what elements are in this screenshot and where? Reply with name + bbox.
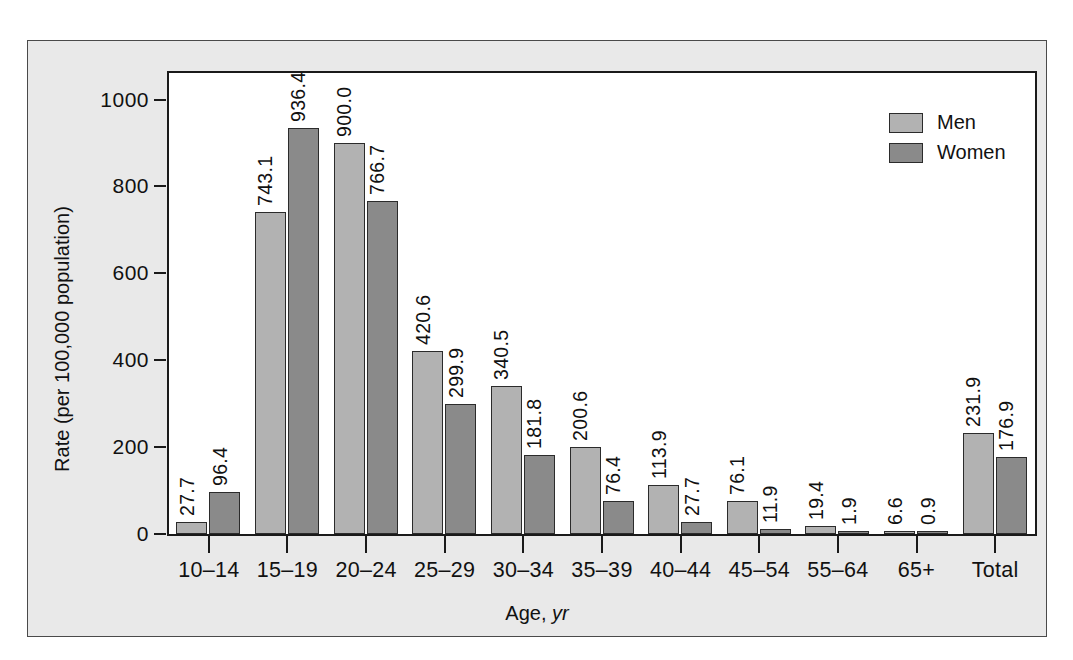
bar-value-label: 96.4 xyxy=(209,447,232,486)
bar-value-label: 299.9 xyxy=(445,348,468,398)
x-axis-tick-mark xyxy=(522,536,524,553)
bar-value-label: 766.7 xyxy=(366,145,389,195)
bar-men xyxy=(334,143,365,534)
bar-women xyxy=(996,457,1027,534)
x-axis-tick-mark xyxy=(837,536,839,553)
y-axis-title: Rate (per 100,000 population) xyxy=(51,206,74,472)
y-axis-tick-mark xyxy=(154,272,166,274)
x-axis-tick-label: 65+ xyxy=(898,558,935,583)
bar-value-label: 27.7 xyxy=(681,477,704,516)
bar-women xyxy=(681,522,712,534)
bar-women xyxy=(603,501,634,534)
x-axis-tick-label: 20–24 xyxy=(335,558,396,583)
x-axis-tick-mark xyxy=(286,536,288,553)
x-axis-title: Age, yr xyxy=(505,602,568,625)
legend-label-women: Women xyxy=(937,141,1006,164)
bar-women xyxy=(760,529,791,534)
bar-women xyxy=(367,201,398,534)
x-axis-title-unit: yr xyxy=(552,602,569,624)
x-axis-tick-label: 25–29 xyxy=(414,558,475,583)
bar-men xyxy=(963,433,994,534)
bar-value-label: 113.9 xyxy=(648,430,671,479)
y-axis-tick-mark xyxy=(154,533,166,535)
plot-area: 27.7743.1900.0420.6340.5200.6113.976.119… xyxy=(167,71,1037,536)
y-axis-tick-label: 200 xyxy=(112,435,149,459)
x-axis-tick-label: 40–44 xyxy=(650,558,711,583)
x-axis-tick-mark xyxy=(208,536,210,553)
y-axis-tick-mark xyxy=(154,185,166,187)
bar-value-label: 200.6 xyxy=(569,391,592,441)
bar-value-label: 743.1 xyxy=(254,155,277,205)
x-axis-tick-label: Total xyxy=(972,558,1019,583)
chart-legend: Men Women xyxy=(889,111,1006,171)
bar-men xyxy=(570,447,601,534)
y-axis-tick-mark xyxy=(154,359,166,361)
legend-item-men: Men xyxy=(889,111,1006,134)
x-axis-tick-label: 45–54 xyxy=(729,558,790,583)
bar-value-label: 900.0 xyxy=(333,87,356,137)
bar-men xyxy=(255,212,286,534)
bar-women xyxy=(288,128,319,534)
bar-value-label: 181.8 xyxy=(523,399,546,449)
bar-women xyxy=(209,492,240,534)
x-axis-tick-label: 15–19 xyxy=(257,558,318,583)
y-axis-tick-mark xyxy=(154,446,166,448)
bar-men xyxy=(884,531,915,534)
bar-men xyxy=(648,485,679,534)
chart-panel: Rate (per 100,000 population) 0200400600… xyxy=(27,40,1047,637)
y-axis-tick-mark xyxy=(154,99,166,101)
y-axis-tick-label: 1000 xyxy=(100,88,149,112)
x-axis-tick-mark xyxy=(758,536,760,553)
bar-women xyxy=(838,531,869,534)
x-axis-tick-mark xyxy=(365,536,367,553)
x-axis-title-text: Age, xyxy=(505,602,552,624)
legend-swatch-men-icon xyxy=(889,113,923,133)
bar-value-label: 0.9 xyxy=(917,497,940,525)
bar-men xyxy=(727,501,758,534)
bar-value-label: 11.9 xyxy=(759,485,782,523)
x-axis-tick-label: 30–34 xyxy=(493,558,554,583)
plot-inner: 27.7743.1900.0420.6340.5200.6113.976.119… xyxy=(169,73,1035,534)
x-axis-tick-mark xyxy=(916,536,918,553)
x-axis-tick-mark xyxy=(444,536,446,553)
bar-value-label: 76.1 xyxy=(726,456,749,495)
bar-value-label: 936.4 xyxy=(287,71,310,121)
legend-label-men: Men xyxy=(937,111,976,134)
bar-value-label: 76.4 xyxy=(602,456,625,495)
x-axis-tick-label: 10–14 xyxy=(178,558,239,583)
bar-value-label: 19.4 xyxy=(805,480,828,519)
x-axis-tick-mark xyxy=(680,536,682,553)
bar-men xyxy=(176,522,207,534)
x-axis-tick-mark xyxy=(601,536,603,553)
legend-swatch-women-icon xyxy=(889,143,923,163)
bar-men xyxy=(805,526,836,534)
bar-men xyxy=(412,351,443,534)
bar-women xyxy=(917,531,948,534)
bar-value-label: 27.7 xyxy=(176,477,199,516)
bar-women xyxy=(445,404,476,534)
x-axis-tick-label: 35–39 xyxy=(571,558,632,583)
bar-value-label: 6.6 xyxy=(884,497,907,525)
y-axis-tick-label: 800 xyxy=(112,174,149,198)
bar-women xyxy=(524,455,555,534)
bar-value-label: 176.9 xyxy=(995,401,1018,451)
bar-value-label: 1.9 xyxy=(838,497,861,525)
chart-screenshot: Rate (per 100,000 population) 0200400600… xyxy=(0,0,1073,660)
y-axis-tick-label: 0 xyxy=(137,522,149,546)
bar-men xyxy=(491,386,522,534)
legend-item-women: Women xyxy=(889,141,1006,164)
bar-value-label: 340.5 xyxy=(490,330,513,380)
y-axis-tick-label: 600 xyxy=(112,261,149,285)
bar-value-label: 231.9 xyxy=(962,377,985,427)
x-axis-tick-mark xyxy=(994,536,996,553)
x-axis-tick-label: 55–64 xyxy=(807,558,868,583)
bar-value-label: 420.6 xyxy=(412,295,435,345)
y-axis-tick-label: 400 xyxy=(112,348,149,372)
